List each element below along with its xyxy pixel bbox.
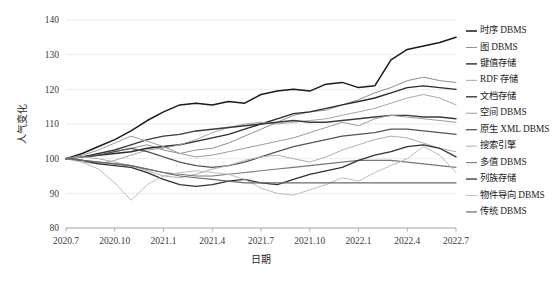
y-axis-tick-label: 120 (45, 85, 60, 95)
series-line-9 (66, 145, 456, 187)
x-axis-tick-label: 2022.1 (345, 236, 371, 246)
legend-label-3: RDF 存储 (480, 73, 518, 84)
legend-label-6: 原生 XML DBMS (480, 123, 549, 134)
legend-label-1: 图 DBMS (480, 42, 518, 52)
legend-label-4: 文档存储 (480, 90, 516, 101)
legend-label-10: 物件导向 DBMS (480, 189, 545, 200)
x-axis-tick-label: 2021.1 (150, 236, 176, 246)
x-axis-tick-label: 2020.10 (99, 236, 130, 246)
y-axis-tick-label: 80 (50, 223, 60, 233)
line-chart: 80901001101201301402020.72020.102021.120… (0, 0, 560, 281)
legend-label-9: 列族存储 (480, 172, 516, 183)
series-line-8 (66, 159, 456, 176)
x-axis-title: 日期 (251, 254, 271, 265)
y-axis-tick-label: 140 (45, 15, 60, 25)
legend-label-8: 多值 DBMS (480, 156, 527, 167)
y-axis-tick-label: 130 (45, 50, 60, 60)
y-axis-tick-label: 90 (50, 189, 60, 199)
legend-label-2: 键值存储 (480, 57, 516, 68)
x-axis-tick-label: 2022.7 (443, 236, 469, 246)
legend-label-5: 空间 DBMS (480, 106, 527, 117)
x-axis-tick-label: 2021.4 (199, 236, 225, 246)
legend-label-0: 时序 DBMS (480, 24, 527, 35)
legend-label-7: 搜索引擎 (480, 139, 516, 150)
y-axis-tick-label: 110 (45, 119, 59, 129)
y-axis-title: 人气变化 (16, 104, 28, 144)
x-axis-tick-label: 2022.4 (394, 236, 420, 246)
series-line-0 (66, 37, 456, 158)
legend-label-11: 传统 DBMS (480, 205, 527, 216)
x-axis-tick-label: 2020.7 (53, 236, 79, 246)
series-line-10 (66, 147, 456, 201)
chart-plot-area: 80901001101201301402020.72020.102021.120… (0, 0, 560, 281)
y-axis-tick-label: 100 (45, 154, 60, 164)
x-axis-tick-label: 2021.10 (294, 236, 325, 246)
x-axis-tick-label: 2021.7 (248, 236, 274, 246)
